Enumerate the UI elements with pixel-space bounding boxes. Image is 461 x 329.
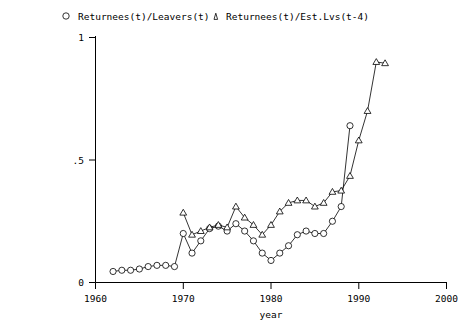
y-ticklabel-0: 0 — [78, 277, 84, 288]
circle-marker-icon — [338, 203, 344, 209]
legend-label-0: Returnees(t)/Leavers(t) — [78, 11, 210, 22]
circle-marker-icon — [294, 232, 300, 238]
y-axis-ticks: 0 .5 1 — [73, 32, 96, 288]
triangle-marker-icon — [364, 108, 371, 114]
circle-marker-icon — [312, 230, 318, 236]
series-1 — [180, 59, 389, 238]
triangle-marker-icon — [373, 59, 380, 65]
triangle-marker-icon — [268, 222, 275, 228]
circle-marker-icon — [233, 221, 239, 227]
circle-marker-icon — [268, 257, 274, 263]
circle-marker-icon — [242, 228, 248, 234]
triangle-marker-icon — [197, 228, 204, 234]
triangle-marker-icon — [233, 203, 240, 209]
circle-marker-icon — [145, 263, 151, 269]
circle-marker-icon — [180, 230, 186, 236]
circle-marker-icon — [163, 262, 169, 268]
circle-marker-icon — [285, 243, 291, 249]
triangle-marker-icon — [355, 137, 362, 143]
x-ticklabel-3: 1990 — [347, 293, 370, 304]
triangle-marker-icon — [189, 231, 196, 237]
y-ticklabel-2: 1 — [78, 32, 84, 43]
x-ticklabel-0: 1960 — [84, 293, 107, 304]
circle-marker-icon — [321, 230, 327, 236]
circle-marker-icon — [347, 123, 353, 129]
circle-marker-icon — [154, 262, 160, 268]
triangle-marker-icon — [250, 222, 257, 228]
chart-canvas: Returnees(t)/Leavers(t) Returnees(t)/Est… — [0, 0, 461, 329]
circle-marker-icon — [189, 250, 195, 256]
circle-marker-icon — [63, 13, 69, 19]
x-axis-ticks: 1960 1970 1980 1990 2000 — [84, 283, 458, 305]
legend-entry-0: Returnees(t)/Leavers(t) — [63, 11, 210, 22]
x-axis-title: year — [260, 309, 283, 320]
x-ticklabel-4: 2000 — [435, 293, 458, 304]
circle-marker-icon — [110, 268, 116, 274]
circle-marker-icon — [303, 228, 309, 234]
legend-label-1: Returnees(t)/Est.Lvs(t-4) — [226, 11, 369, 22]
triangle-marker-icon — [294, 197, 301, 203]
triangle-marker-icon — [303, 197, 310, 203]
circle-marker-icon — [128, 267, 134, 273]
triangle-marker-icon — [311, 203, 318, 209]
series-line-1 — [183, 62, 385, 235]
y-ticklabel-1: .5 — [73, 155, 84, 166]
circle-marker-icon — [250, 238, 256, 244]
circle-marker-icon — [119, 267, 125, 273]
legend-entry-1: Returnees(t)/Est.Lvs(t-4) — [214, 11, 369, 22]
circle-marker-icon — [259, 250, 265, 256]
circle-marker-icon — [329, 218, 335, 224]
x-ticklabel-1: 1970 — [172, 293, 195, 304]
chart-legend: Returnees(t)/Leavers(t) Returnees(t)/Est… — [63, 11, 369, 22]
circle-marker-icon — [136, 266, 142, 272]
circle-marker-icon — [277, 250, 283, 256]
series-0 — [110, 123, 353, 275]
triangle-marker-icon — [347, 173, 354, 179]
circle-marker-icon — [171, 263, 177, 269]
series-line-0 — [113, 126, 350, 272]
x-ticklabel-2: 1980 — [260, 293, 283, 304]
chart-plot-area — [110, 59, 389, 275]
chart-figure: Returnees(t)/Leavers(t) Returnees(t)/Est… — [0, 0, 461, 329]
triangle-marker-icon — [180, 209, 187, 215]
circle-marker-icon — [198, 238, 204, 244]
triangle-marker-icon — [214, 13, 218, 19]
